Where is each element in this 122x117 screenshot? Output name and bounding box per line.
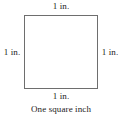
side-label-left: 1 in. <box>1 47 23 57</box>
figure-caption: One square inch <box>0 104 122 115</box>
side-label-right: 1 in. <box>99 47 121 57</box>
side-label-bottom: 1 in. <box>0 91 122 101</box>
square-shape <box>24 15 98 89</box>
geometry-figure: 1 in. 1 in. 1 in. 1 in. One square inch <box>0 0 122 117</box>
side-label-top: 1 in. <box>0 1 122 11</box>
